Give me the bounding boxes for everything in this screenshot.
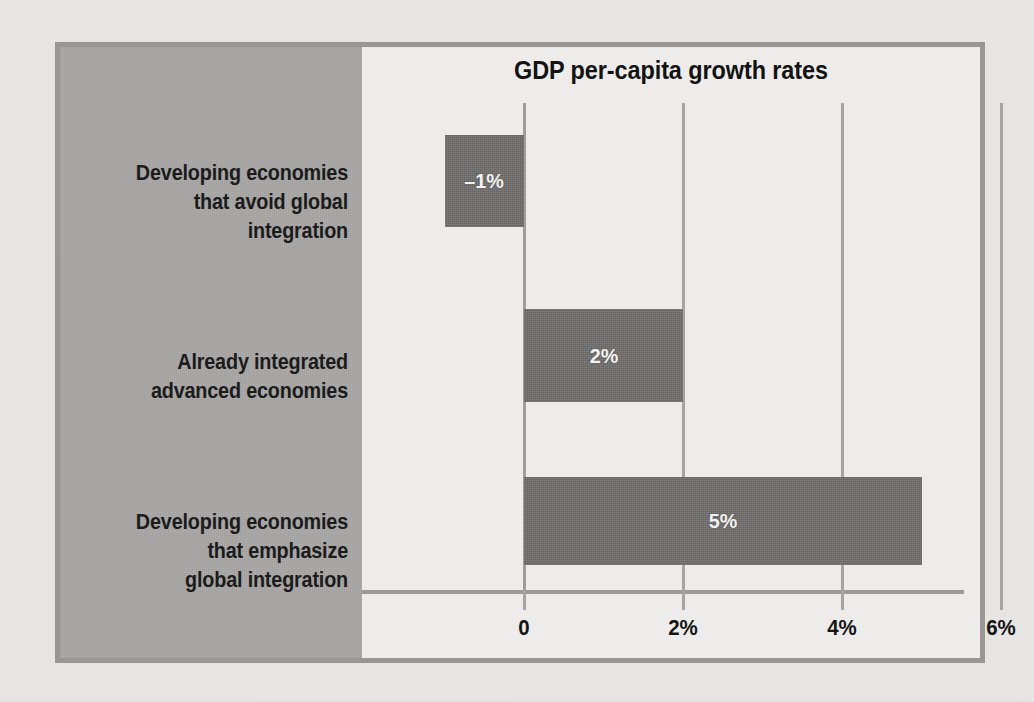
x-tick-label-6: 6% [986,615,1016,641]
category-label-developing-emphasize: Developing economies that emphasize glob… [112,507,348,594]
bar-value-label-5: 5% [708,509,737,533]
bar-value-label-minus-1: –1% [464,169,504,193]
gridline-6 [1000,103,1003,590]
x-tick-label-0: 0 [518,615,529,641]
tick-mark-4 [841,590,844,610]
bar-value-label-2: 2% [589,344,618,368]
tick-mark-6 [1000,590,1003,610]
x-tick-label-2: 2% [668,615,698,641]
category-label-panel: Developing economies that avoid global i… [60,47,362,658]
x-tick-label-4: 4% [827,615,857,641]
chart-title: GDP per-capita growth rates [387,56,956,85]
chart-figure-frame: Developing economies that avoid global i… [55,42,985,663]
tick-mark-0 [523,590,526,610]
category-label-developing-avoid: Developing economies that avoid global i… [112,158,348,245]
category-label-already-integrated: Already integrated advanced economies [112,347,348,405]
x-axis-line [362,590,964,594]
plot-area: GDP per-capita growth rates 0 2% 4% 6% [362,47,980,658]
page-background: Developing economies that avoid global i… [0,0,1034,702]
tick-mark-2 [682,590,685,610]
